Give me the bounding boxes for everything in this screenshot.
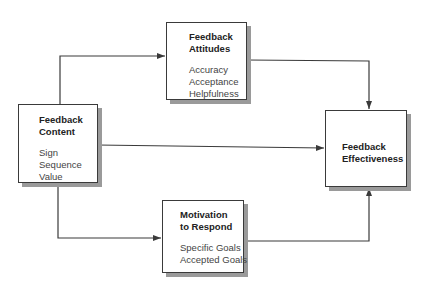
- node-items: Specific Goals Accepted Goals: [180, 242, 243, 266]
- node-feedback-content: Feedback Content Sign Sequence Value: [18, 104, 98, 183]
- edge-content-motivation: [58, 182, 161, 238]
- node-motivation-to-respond: Motivation to Respond Specific Goals Acc…: [162, 200, 244, 273]
- edge-content-attitudes: [60, 56, 165, 104]
- node-item: Specific Goals: [180, 242, 243, 254]
- node-title: Motivation to Respond: [180, 209, 243, 233]
- node-item: Sign: [39, 147, 97, 159]
- node-item: Accuracy: [189, 64, 246, 76]
- edge-motivation-effectiveness: [244, 188, 369, 241]
- node-feedback-attitudes: Feedback Attitudes Accuracy Acceptance H…: [166, 22, 247, 100]
- node-item: Accepted Goals: [180, 254, 243, 266]
- node-item: Helpfulness: [189, 88, 246, 100]
- node-item: Sequence: [39, 159, 97, 171]
- node-item: Value: [39, 171, 97, 183]
- node-items: Accuracy Acceptance Helpfulness: [189, 64, 246, 100]
- node-items: Sign Sequence Value: [39, 147, 97, 183]
- node-title: Feedback Attitudes: [189, 31, 246, 55]
- node-title: Feedback Effectiveness: [342, 141, 406, 165]
- edge-content-effectiveness: [97, 145, 324, 148]
- node-feedback-effectiveness: Feedback Effectiveness: [325, 110, 407, 187]
- edge-attitudes-effectiveness: [247, 60, 369, 109]
- node-item: Acceptance: [189, 76, 246, 88]
- node-title: Feedback Content: [39, 114, 97, 138]
